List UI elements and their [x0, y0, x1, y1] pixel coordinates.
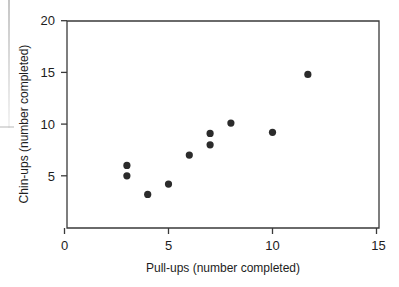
data-point: [207, 141, 214, 148]
x-axis-title: Pull-ups (number completed): [146, 261, 300, 275]
data-point: [123, 172, 130, 179]
scatter-chart: 0 5 10 15 5 10 15 20 Pull-ups (number co…: [0, 0, 399, 287]
x-tick-label-5: 5: [165, 238, 172, 253]
data-point: [123, 162, 130, 169]
data-point: [227, 119, 234, 126]
y-axis-title: Chin-ups (number completed): [17, 45, 31, 204]
y-tick-label-20: 20: [41, 13, 55, 28]
y-tick-label-10: 10: [41, 117, 55, 132]
data-point: [186, 152, 193, 159]
data-point: [165, 180, 172, 187]
data-point: [304, 71, 311, 78]
x-tick-label-15: 15: [371, 238, 385, 253]
y-tick-label-15: 15: [41, 65, 55, 80]
y-tick-label-5: 5: [48, 169, 55, 184]
data-point: [144, 191, 151, 198]
y-axis-tick-labels: 5 10 15 20: [41, 13, 55, 183]
x-tick-label-0: 0: [61, 238, 68, 253]
scatter-plot-screenshot: 0 5 10 15 5 10 15 20 Pull-ups (number co…: [0, 0, 399, 287]
data-point: [207, 130, 214, 137]
x-tick-label-10: 10: [265, 238, 279, 253]
x-axis-tick-labels: 0 5 10 15: [61, 238, 386, 253]
plot-frame: [67, 21, 379, 228]
y-axis-ticks: [61, 21, 67, 176]
x-axis-ticks: [65, 228, 377, 234]
data-points-group: [123, 71, 311, 198]
data-point: [269, 129, 276, 136]
